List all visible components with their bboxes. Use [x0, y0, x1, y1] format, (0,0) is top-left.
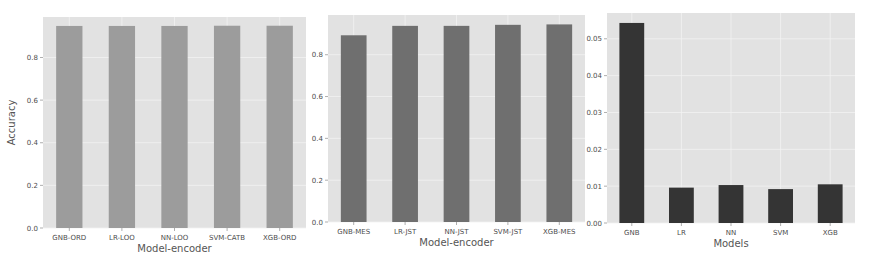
x-tick-label: GNB: [624, 229, 640, 237]
bar-svm: [768, 189, 793, 223]
y-axis-label: Accuracy: [6, 100, 17, 146]
bar-gnb-mes: [341, 35, 367, 222]
y-tick-label: 0.04: [586, 72, 602, 80]
bar-svm-jst: [495, 25, 521, 222]
x-tick-label: LR: [677, 229, 686, 237]
y-tick-label: 0.02: [586, 146, 602, 154]
x-tick-label: SVM: [773, 229, 788, 237]
y-tick-label: 0.05: [586, 35, 602, 43]
chart-panel-1: 0.00.20.40.60.8GNB-ORDLR-LOONN-LOOSVM-CA…: [6, 17, 306, 254]
x-tick-label: GNB-ORD: [52, 234, 86, 242]
y-tick-label: 0.0: [312, 219, 323, 227]
y-tick-label: 0.6: [27, 97, 39, 105]
bar-xgb: [818, 184, 843, 223]
y-tick-label: 0.6: [312, 93, 324, 101]
x-axis-label: Models: [713, 238, 748, 249]
bar-xgb-mes: [546, 24, 572, 222]
x-tick-label: LR-LOO: [109, 234, 135, 242]
bar-nn-loo: [161, 26, 187, 228]
bar-svm-catb: [214, 26, 240, 228]
x-tick-label: NN-LOO: [161, 234, 189, 242]
x-tick-label: XGB-ORD: [263, 234, 297, 242]
figure: 0.00.20.40.60.8GNB-ORDLR-LOONN-LOOSVM-CA…: [0, 0, 869, 273]
x-tick-label: XGB: [823, 229, 838, 237]
bar-lr-jst: [392, 26, 418, 222]
x-tick-label: LR-JST: [394, 228, 417, 236]
y-tick-label: 0.00: [586, 220, 602, 228]
bar-gnb: [619, 23, 644, 223]
bar-lr: [669, 188, 694, 223]
chart-panel-3: 0.000.010.020.030.040.05GNBLRNNSVMXGBMod…: [586, 13, 855, 249]
bar-lr-loo: [109, 26, 135, 228]
bar-gnb-ord: [56, 26, 82, 228]
x-axis-label: Model-encoder: [137, 243, 212, 254]
x-tick-label: SVM-JST: [493, 228, 523, 236]
bar-nn-jst: [444, 26, 470, 222]
y-tick-label: 0.01: [586, 183, 602, 191]
bar-xgb-ord: [267, 26, 293, 228]
y-tick-label: 0.4: [27, 139, 39, 147]
y-tick-label: 0.2: [312, 177, 323, 185]
y-tick-label: 0.2: [27, 182, 38, 190]
x-axis-label: Model-encoder: [419, 237, 494, 248]
y-tick-label: 0.8: [312, 51, 323, 59]
y-tick-label: 0.03: [586, 109, 602, 117]
x-tick-label: SVM-CATB: [209, 234, 245, 242]
y-tick-label: 0.0: [27, 225, 38, 233]
chart-panel-2: 0.00.20.40.60.8GNB-MESLR-JSTNN-JSTSVM-JS…: [312, 15, 585, 248]
x-tick-label: XGB-MES: [543, 228, 576, 236]
x-tick-label: GNB-MES: [337, 228, 370, 236]
x-tick-label: NN: [726, 229, 736, 237]
y-tick-label: 0.4: [312, 135, 324, 143]
x-tick-label: NN-JST: [444, 228, 469, 236]
bar-nn: [719, 185, 744, 223]
y-tick-label: 0.8: [27, 54, 38, 62]
